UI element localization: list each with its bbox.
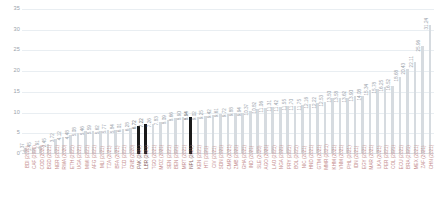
- bar-slot: 9.88: [232, 9, 239, 154]
- bar-slot: 7.22: [142, 9, 149, 154]
- y-axis-tick-label: 20: [2, 68, 20, 74]
- x-label-slot: LAO (2021): [269, 156, 276, 216]
- x-label-slot: GNB (2020): [127, 156, 134, 216]
- bar-slot: 11.31: [269, 9, 276, 154]
- bar-value-label: 5.62: [96, 125, 101, 134]
- x-label-slot: TCD (2021): [119, 156, 126, 216]
- x-label-slot: ECU (2021): [396, 156, 403, 216]
- x-label-slot: GHA (2021): [239, 156, 246, 216]
- bar: 15.78: [376, 89, 379, 154]
- bar-value-label: 9.88: [231, 108, 236, 117]
- bar-value-label: 10.37: [246, 104, 251, 116]
- x-label-slot: MWI (2021): [82, 156, 89, 216]
- bar-value-label: 12.53: [320, 95, 325, 107]
- bar-slot: 12.22: [314, 9, 321, 154]
- plot-area: 1.371.451.912.453.724.124.485.085.465.59…: [22, 9, 434, 154]
- bar: 16.25: [384, 87, 387, 154]
- bar: 25.96: [421, 46, 424, 154]
- bar-value-label: 13.62: [343, 91, 348, 103]
- x-label-slot: CHN (2021): [426, 156, 433, 216]
- bar-value-label: 9.61: [216, 109, 221, 118]
- bar-slot: 11.06: [262, 9, 269, 154]
- x-label-slot: PER (2021): [381, 156, 388, 216]
- bar-value-label: 11.42: [276, 100, 281, 111]
- x-label-slot: KEN (2021): [194, 156, 201, 216]
- x-axis-tick-label: CHN (2021): [430, 145, 435, 170]
- x-label-slot: ETH (2021): [67, 156, 74, 216]
- x-label-slot: SLE (2020): [254, 156, 261, 216]
- y-axis-tick-label: 15: [2, 89, 20, 95]
- bar-value-label: 11.55: [283, 99, 288, 110]
- bar-slot: 9.61: [217, 9, 224, 154]
- x-label-slot: BGD (2021): [44, 156, 51, 216]
- bar-value-label: 5.84: [111, 124, 116, 133]
- bar-slot: 13.90: [351, 9, 358, 154]
- x-label-slot: MAR (2021): [366, 156, 373, 216]
- bar-value-label: 31.24: [425, 18, 430, 30]
- bar-value-label: 13.50: [328, 91, 333, 103]
- x-label-slot: TGO (2021): [149, 156, 156, 216]
- bar-slot: 20.43: [404, 9, 411, 154]
- x-label-slot: NGA (2021): [276, 156, 283, 216]
- bar-value-label: 22.11: [410, 56, 415, 67]
- x-label-slot: RWA (2020): [59, 156, 66, 216]
- bar-slot: 7.26: [149, 9, 156, 154]
- bar-value-label: 9.02: [193, 111, 198, 120]
- bar-value-label: 11.70: [290, 99, 295, 110]
- x-label-slot: BDI (2020): [22, 156, 29, 216]
- y-axis-tick-label: 10: [2, 110, 20, 116]
- x-label-slot: ZAF (2021): [419, 156, 426, 216]
- bar-slot: 6.28: [127, 9, 134, 154]
- x-label-slot: MRT (2021): [179, 156, 186, 216]
- bar-slot: 1.45: [29, 9, 36, 154]
- bar-value-label: 7.26: [148, 118, 153, 127]
- bar-value-label: 8.94: [186, 111, 191, 120]
- bar-slot: 11.70: [291, 9, 298, 154]
- x-label-slot: LKA (2021): [374, 156, 381, 216]
- bar-value-label: 13.58: [335, 91, 340, 103]
- bar-value-label: 6.01: [118, 124, 123, 133]
- bar-value-label: 14.08: [358, 89, 363, 101]
- bar-series: 1.371.451.912.453.724.124.485.085.465.59…: [22, 9, 434, 154]
- bar-slot: 6.01: [119, 9, 126, 154]
- bar-value-label: 8.66: [171, 113, 176, 122]
- x-axis-category-labels: BDI (2020)CAF (2020)COD (2020)BGD (2021)…: [22, 156, 434, 216]
- bar-slot: 22.11: [411, 9, 418, 154]
- x-label-slot: UGA (2021): [74, 156, 81, 216]
- x-label-slot: SDN (2021): [217, 156, 224, 216]
- x-label-slot: PHL (2021): [344, 156, 351, 216]
- bar-value-label: 8.09: [163, 115, 168, 124]
- bar-value-label: 15.78: [373, 82, 378, 94]
- bar-value-label: 6.72: [133, 121, 138, 130]
- bar-value-label: 8.90: [178, 112, 183, 121]
- x-label-slot: BEN (2021): [172, 156, 179, 216]
- bar-value-label: 25.96: [418, 40, 423, 52]
- bar-value-label: 15.34: [365, 84, 370, 96]
- x-label-slot: CAF (2020): [29, 156, 36, 216]
- bar-value-label: 6.28: [126, 122, 131, 131]
- bar: 16.52: [391, 86, 394, 154]
- x-label-slot: COL (2021): [389, 156, 396, 216]
- x-label-slot: SEN (2021): [164, 156, 171, 216]
- x-label-slot: GTM (2021): [314, 156, 321, 216]
- bar-value-label: 20.43: [403, 63, 408, 75]
- x-label-slot: BFA (2021): [112, 156, 119, 216]
- bar-slot: 8.66: [172, 9, 179, 154]
- bar-slot: 13.62: [344, 9, 351, 154]
- bar-slot: 9.02: [194, 9, 201, 154]
- bar-slot: 31.24: [426, 9, 433, 154]
- bar-value-label: 4.48: [66, 130, 71, 139]
- x-label-slot: NER (2021): [52, 156, 59, 216]
- bar-value-label: 16.52: [388, 79, 393, 91]
- bar-slot: 6.72: [134, 9, 141, 154]
- bar-value-label: 16.25: [380, 80, 385, 92]
- bar-chart: 1.371.451.912.453.724.124.485.085.465.59…: [0, 0, 440, 217]
- bar-slot: 9.94: [239, 9, 246, 154]
- bar-value-label: 5.77: [103, 125, 108, 134]
- bar-slot: 11.55: [284, 9, 291, 154]
- bar-slot: 10.37: [247, 9, 254, 154]
- bar-value-label: 5.46: [81, 126, 86, 135]
- x-label-slot: PAK (2021): [134, 156, 141, 216]
- bar-slot: 11.42: [276, 9, 283, 154]
- bar-value-label: 9.72: [223, 108, 228, 117]
